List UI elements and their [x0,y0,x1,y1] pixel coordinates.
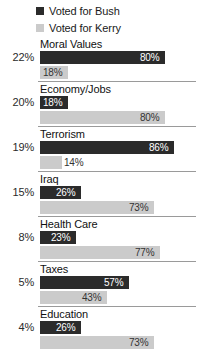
group-divider [38,171,196,172]
bar-value-label: 73% [129,336,148,349]
group-bars: 80%18% [40,51,196,81]
group-category-label: Economy/Jobs [40,83,111,95]
bar-group: 22%Moral Values80%18% [0,36,213,81]
legend-item-bush: Voted for Bush [36,3,196,18]
group-bars: 18%80% [40,96,196,126]
bar-chart: Voted for Bush Voted for Kerry 22%Moral … [0,0,213,350]
bar-value-label: 73% [129,201,148,214]
bar-value-label: 43% [82,291,101,304]
group-divider [38,126,196,127]
bar-track: 57% [40,276,196,289]
chart-legend: Voted for Bush Voted for Kerry [36,3,196,37]
group-total-label: 19% [0,141,34,153]
bar-value-label: 23% [51,231,70,244]
legend-swatch-bush [36,7,44,15]
group-category-label: Iraq [40,173,59,185]
group-divider [38,216,196,217]
group-bars: 86%14% [40,141,196,171]
bar-track: 23% [40,231,196,244]
legend-item-kerry: Voted for Kerry [36,20,196,35]
bar-value-label: 77% [135,246,154,259]
legend-swatch-kerry [36,24,44,32]
bar-value-label: 26% [56,321,75,334]
group-total-label: 4% [0,321,34,333]
bar-track: 18% [40,66,196,79]
group-category-label: Taxes [40,263,68,275]
group-total-label: 15% [0,186,34,198]
bar-track: 77% [40,246,196,259]
bar-track: 26% [40,186,196,199]
group-bars: 57%43% [40,276,196,306]
bar-group: 19%Terrorism86%14% [0,126,213,171]
bar-track: 73% [40,201,196,214]
group-bars: 23%77% [40,231,196,261]
legend-label-kerry: Voted for Kerry [49,22,121,34]
bar-track: 18% [40,96,196,109]
group-divider [38,261,196,262]
group-divider [38,306,196,307]
bar-value-label: 80% [140,51,159,64]
bar-group: 8%Health Care23%77% [0,216,213,261]
legend-label-bush: Voted for Bush [49,5,120,17]
bar-value-label: 57% [104,276,123,289]
group-total-label: 5% [0,276,34,288]
bar-value-label: 18% [43,96,62,109]
bar-value-label: 86% [149,141,168,154]
group-bars: 26%73% [40,321,196,350]
group-category-label: Education [40,308,88,320]
bar-value-label: 80% [140,111,159,124]
bar-group: 4%Education26%73% [0,306,213,350]
bar-group: 5%Taxes57%43% [0,261,213,306]
bar-track: 14% [40,156,196,169]
group-category-label: Moral Values [40,38,102,50]
bar-track: 43% [40,291,196,304]
bar-track: 26% [40,321,196,334]
bar-track: 86% [40,141,196,154]
bar-group: 15%Iraq26%73% [0,171,213,216]
bar-kerry [40,156,62,169]
group-total-label: 8% [0,231,34,243]
group-category-label: Terrorism [40,128,85,140]
bar-value-label: 18% [43,66,62,79]
chart-plot-area: 22%Moral Values80%18%20%Economy/Jobs18%8… [0,36,213,350]
group-total-label: 22% [0,51,34,63]
bar-track: 80% [40,51,196,64]
group-total-label: 20% [0,96,34,108]
group-bars: 26%73% [40,186,196,216]
bar-value-label: 14% [64,156,83,169]
group-divider [38,81,196,82]
bar-track: 80% [40,111,196,124]
bar-track: 73% [40,336,196,349]
bar-value-label: 26% [56,186,75,199]
bar-group: 20%Economy/Jobs18%80% [0,81,213,126]
group-category-label: Health Care [40,218,98,230]
